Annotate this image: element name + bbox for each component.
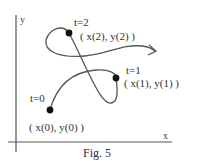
param-label-t1: t=1 <box>126 64 141 76</box>
coord-label-t2: ( x(2), y(2) ) <box>80 30 135 43</box>
point-t0 <box>47 107 54 114</box>
param-label-t0: t=0 <box>30 92 45 104</box>
param-label-t2: t=2 <box>74 16 89 28</box>
figure-caption: Fig. 5 <box>83 146 111 160</box>
y-axis-label: y <box>20 14 25 25</box>
coord-label-t0: ( x(0), y(0) ) <box>29 121 84 134</box>
point-t1 <box>113 75 120 82</box>
parametric-curve-diagram: y x t=0 ( x(0), y(0) ) t=1 ( x(1), y(1) … <box>0 0 201 161</box>
coord-label-t1: ( x(1), y(1) ) <box>124 77 179 90</box>
x-axis-label: x <box>163 130 168 141</box>
point-t2 <box>66 30 73 37</box>
direction-arrowhead <box>148 45 156 55</box>
